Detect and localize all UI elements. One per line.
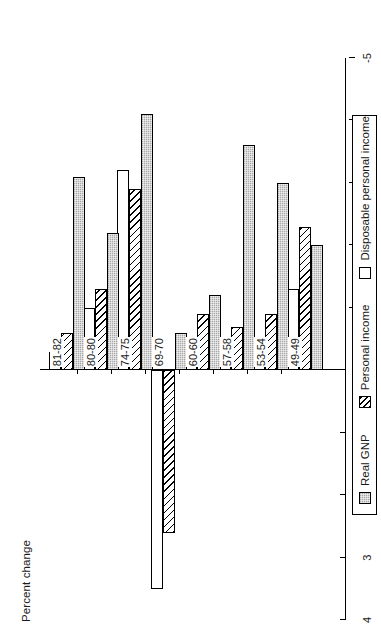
period-label-80-80: 80-80 xyxy=(84,337,98,367)
period-label-49-49: 49-49 xyxy=(288,337,302,367)
axis-tick-label: 3 xyxy=(361,546,373,570)
legend-item-gnp: Real GNP xyxy=(359,434,371,504)
bar-69-70-pi xyxy=(163,370,175,532)
bar-74-75-gnp xyxy=(141,114,153,370)
axis-tick xyxy=(340,619,346,620)
legend-swatch-gnp-icon xyxy=(359,492,371,504)
period-label-74-75: 74-75 xyxy=(118,337,132,367)
rotated-figure: Percent change 43210-1-2-3-4-5 49-4953-5… xyxy=(0,0,381,642)
plot-area: 43210-1-2-3-4-5 49-4953-5457-5860-6069-7… xyxy=(40,58,346,620)
period-label-60-60: 60-60 xyxy=(186,337,200,367)
legend-label: Real GNP xyxy=(359,434,371,486)
legend: Real GNPPersonal incomeDisposable person… xyxy=(352,115,377,515)
axis-tick xyxy=(340,369,346,370)
legend-label: Disposable personal income xyxy=(359,116,371,260)
axis-tick xyxy=(349,57,355,58)
chart-canvas: Percent change 43210-1-2-3-4-5 49-4953-5… xyxy=(0,0,381,642)
axis-tick xyxy=(340,557,346,558)
period-label-81-82: 81-82 xyxy=(50,337,64,367)
figure: Percent change 43210-1-2-3-4-5 49-4953-5… xyxy=(0,0,381,642)
period-label-69-70: 69-70 xyxy=(152,337,166,367)
bar-69-70-dpi xyxy=(151,370,163,589)
legend-item-pi: Personal income xyxy=(359,305,371,409)
period-label-53-54: 53-54 xyxy=(254,337,268,367)
axis-tick xyxy=(340,432,346,433)
period-label-57-58: 57-58 xyxy=(220,337,234,367)
legend-label: Personal income xyxy=(359,305,371,391)
value-axis xyxy=(345,58,346,620)
legend-swatch-pi-icon xyxy=(359,396,371,408)
legend-swatch-dpi-icon xyxy=(359,267,371,279)
axis-tick-label: -5 xyxy=(361,46,373,70)
bar-49-49-gnp xyxy=(311,245,323,370)
axis-tick xyxy=(340,494,346,495)
legend-item-dpi: Disposable personal income xyxy=(359,116,371,278)
axis-caption: Percent change xyxy=(20,540,32,622)
axis-tick-label: 4 xyxy=(361,608,373,632)
